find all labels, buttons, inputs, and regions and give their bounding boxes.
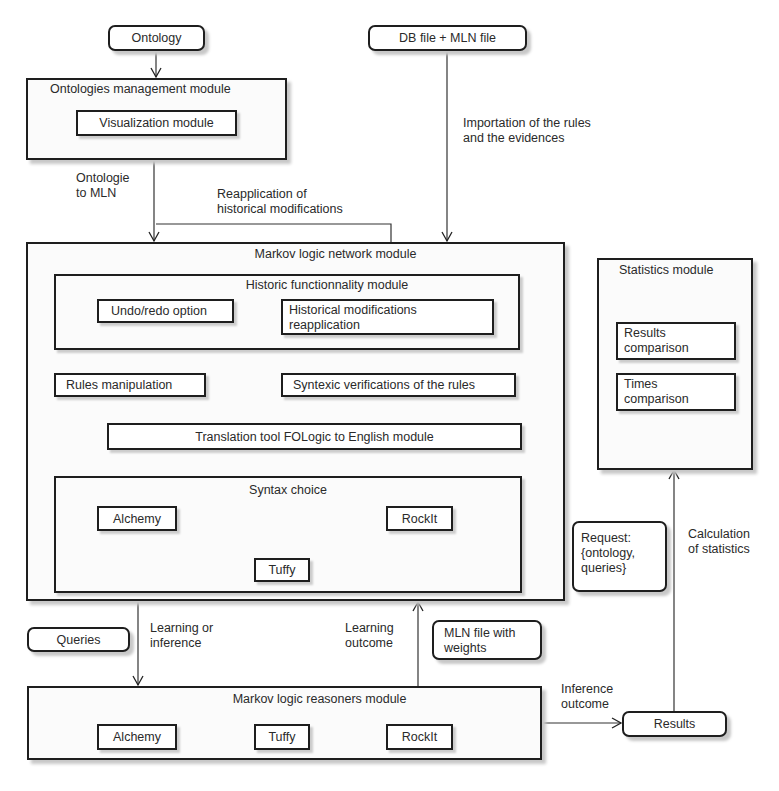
db-mln-file-label: DB file + MLN file — [399, 31, 496, 45]
results-comparison: Results comparison — [616, 322, 736, 360]
queries-input: Queries — [27, 627, 130, 652]
ontologie-to-mln-label: Ontologie to MLN — [76, 171, 130, 201]
results-output: Results — [622, 711, 727, 737]
statistics-module-title: Statistics module — [599, 263, 751, 278]
ontologies-management-module: Ontologies management module Visualizati… — [26, 78, 287, 160]
mln-file-with-weights: MLN file with weights — [432, 620, 542, 660]
translation-tool-module: Translation tool FOLogic to English modu… — [107, 423, 522, 450]
ontologies-management-title: Ontologies management module — [28, 82, 285, 97]
rules-manipulation: Rules manipulation — [54, 373, 206, 397]
times-comparison: Times comparison — [616, 373, 736, 411]
syntax-tuffy: Tuffy — [254, 558, 310, 582]
reasoner-tuffy: Tuffy — [254, 724, 310, 750]
historic-module-title: Historic functionnality module — [56, 278, 518, 293]
mln-module-title: Markov logic network module — [28, 247, 563, 262]
inference-outcome-label: Inference outcome — [561, 682, 613, 712]
reasoners-module-title: Markov logic reasoners module — [29, 692, 540, 707]
ontology-label: Ontology — [131, 31, 181, 45]
reapplication-label: Reapplication of historical modification… — [217, 187, 343, 217]
importation-label: Importation of the rules and the evidenc… — [463, 116, 591, 146]
learning-or-inference-label: Learning or inference — [150, 621, 213, 651]
syntax-choice-title: Syntax choice — [56, 483, 520, 498]
syntexic-verifications: Syntexic verifications of the rules — [281, 373, 516, 397]
statistics-module: Statistics module Results comparison Tim… — [597, 258, 753, 470]
reasoner-rockit: RockIt — [386, 724, 453, 750]
learning-outcome-label: Learning outcome — [345, 621, 394, 651]
syntax-rockit: RockIt — [386, 506, 453, 531]
reasoner-alchemy: Alchemy — [97, 724, 177, 750]
calculation-statistics-label: Calculation of statistics — [688, 527, 750, 557]
visualization-module: Visualization module — [76, 110, 237, 136]
undo-redo-option: Undo/redo option — [97, 299, 234, 323]
ontology-input: Ontology — [108, 25, 205, 51]
request-box: Request: {ontology, queries} — [572, 521, 667, 592]
historical-modifications-reapplication: Historical modifications reapplication — [281, 299, 494, 335]
db-mln-file-input: DB file + MLN file — [368, 25, 527, 51]
visualization-label: Visualization module — [99, 116, 213, 130]
syntax-alchemy: Alchemy — [97, 506, 177, 531]
